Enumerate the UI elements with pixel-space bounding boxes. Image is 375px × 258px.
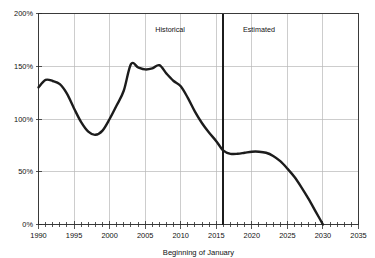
annotation-label: Historical: [155, 25, 185, 34]
y-tick-label: 50%: [18, 167, 33, 176]
line-chart: 0%50%100%150%200% 1990199520002005201020…: [0, 0, 375, 258]
x-tick-label: 2020: [244, 231, 260, 240]
annotation-label: Estimated: [243, 25, 275, 34]
x-tick-label: 2015: [208, 231, 224, 240]
chart-container: 0%50%100%150%200% 1990199520002005201020…: [0, 0, 375, 258]
x-tick-label: 2000: [101, 231, 117, 240]
x-tick-label: 2025: [279, 231, 295, 240]
y-tick-label: 100%: [14, 115, 33, 124]
x-tick-label: 2035: [350, 231, 366, 240]
x-tick-label: 2010: [172, 231, 188, 240]
x-tick-label: 1995: [66, 231, 82, 240]
x-tick-label: 2030: [315, 231, 331, 240]
y-tick-label: 150%: [14, 62, 33, 71]
x-axis-title: Beginning of January: [163, 248, 235, 257]
x-tick-label: 1990: [30, 231, 46, 240]
y-tick-label: 0%: [22, 220, 33, 229]
x-tick-label: 2005: [137, 231, 153, 240]
y-tick-label: 200%: [14, 9, 33, 18]
